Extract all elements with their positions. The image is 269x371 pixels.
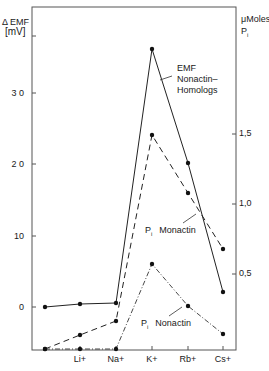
x-label-rb: Rb+ (176, 354, 200, 364)
leader-nonactin (169, 307, 182, 316)
right-axis-label-line1: μMoles (241, 14, 269, 24)
annot-pi-monactin: PiMonactin (145, 225, 196, 239)
left-tick-30: 3 0 (4, 88, 24, 98)
chart-plot (0, 0, 269, 371)
left-axis-label-line2: [mV] (5, 27, 26, 37)
leader-monactin (183, 214, 196, 223)
right-axis-ticks (232, 134, 236, 274)
left-axis-ticks (32, 36, 36, 307)
leader-emf (160, 76, 172, 80)
annot-emf-line2: Nonactin– (177, 74, 218, 84)
x-label-na: Na+ (104, 354, 128, 364)
left-tick-20: 2 0 (4, 159, 24, 169)
right-tick-0-5: 0,5 (239, 268, 252, 278)
x-label-cs: Cs+ (211, 354, 235, 364)
series-pi-monactin (45, 135, 223, 349)
right-tick-1-5: 1,5 (239, 128, 252, 138)
x-axis-ticks (80, 346, 223, 350)
annot-emf-line1: EMF (177, 63, 196, 73)
left-tick-0: 0 (4, 302, 24, 312)
annot-emf-line3: Homologs (177, 85, 218, 95)
right-tick-1-0: 1,0 (239, 198, 252, 208)
x-label-li: Li+ (68, 354, 92, 364)
x-label-k: K+ (140, 354, 164, 364)
right-axis-label-line2: Pi (241, 26, 248, 40)
series-monactin-markers (43, 133, 225, 351)
series-pi-nonactin (45, 264, 223, 349)
left-tick-10: 10 (4, 231, 24, 241)
annot-pi-nonactin: PiNonactin (141, 318, 191, 332)
